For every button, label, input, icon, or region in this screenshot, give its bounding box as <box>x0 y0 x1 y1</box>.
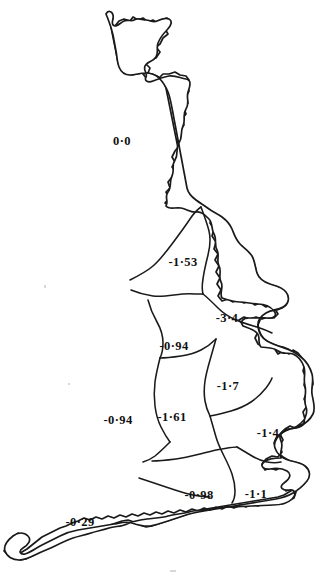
scan-artifact-speck-3 <box>170 570 176 572</box>
region-value-scotland: 0·0 <box>113 135 131 148</box>
map-figure: 0·0 -1·53 -3·4 -0·94 -1·7 -0·94 -1·61 -1… <box>0 0 332 576</box>
region-value-east-midlands: -1·7 <box>217 380 239 393</box>
divider-scotland-north-england <box>130 207 201 280</box>
region-value-yorkshire-humberside: -3·4 <box>216 312 238 325</box>
region-value-west-midlands-south-west: -1·61 <box>157 411 186 424</box>
region-value-east-anglia: -1·4 <box>257 427 279 440</box>
divider-wales-south <box>154 358 170 442</box>
region-value-southern: -0·98 <box>184 489 213 502</box>
divider-eastmidlands-west <box>204 339 216 416</box>
region-value-wales: -0·94 <box>103 414 132 427</box>
divider-southern-southeast <box>210 416 235 503</box>
region-value-south-west: -0·29 <box>65 516 94 529</box>
scan-artifact-speck <box>44 285 46 288</box>
divider-north-england-yorkshire <box>201 207 210 294</box>
divider-wales-southwest <box>143 442 170 462</box>
divider-north-england-midlands <box>131 290 203 296</box>
great-britain-map-outline <box>0 0 332 576</box>
region-value-north-west-midlands: -0·94 <box>159 340 188 353</box>
divider-westmidlands-southern <box>152 447 237 461</box>
region-value-north-england: -1·53 <box>168 256 197 269</box>
scan-artifact-speck-2 <box>68 383 70 385</box>
region-value-south-east: -1·1 <box>245 488 267 501</box>
britain-silhouette <box>5 11 315 560</box>
